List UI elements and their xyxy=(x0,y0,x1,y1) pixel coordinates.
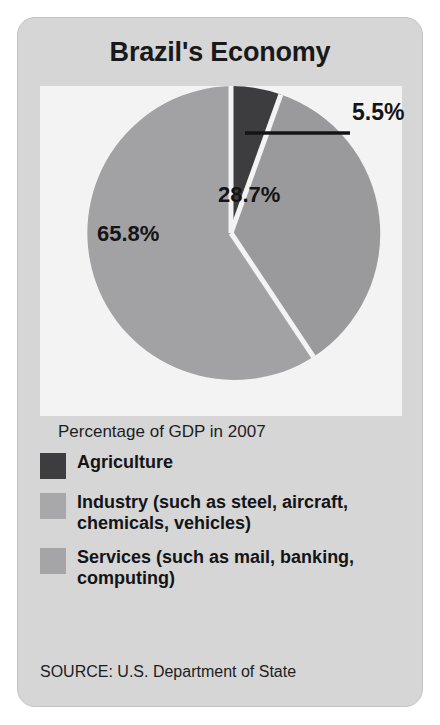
page-title: Brazil's Economy xyxy=(110,37,331,68)
legend-swatch-industry xyxy=(40,493,66,519)
legend-item-agriculture: Agriculture xyxy=(40,452,412,479)
source-note: SOURCE: U.S. Department of State xyxy=(40,663,296,681)
legend-label-agriculture: Agriculture xyxy=(77,452,173,473)
chart-legend: Percentage of GDP in 2007 Agriculture In… xyxy=(40,422,412,602)
legend-swatch-agriculture xyxy=(40,453,66,479)
legend-swatch-services xyxy=(40,548,66,574)
pie-label-industry: 28.7% xyxy=(218,182,280,208)
legend-item-industry: Industry (such as steel, aircraft, chemi… xyxy=(40,492,412,534)
chart-panel: 5.5% 28.7% 65.8% xyxy=(40,86,402,416)
pie-chart-svg xyxy=(40,86,402,416)
pie-chart: 5.5% 28.7% 65.8% xyxy=(40,86,402,416)
legend-caption: Percentage of GDP in 2007 xyxy=(58,422,412,442)
pie-label-agriculture: 5.5% xyxy=(352,99,404,126)
legend-item-services: Services (such as mail, banking, computi… xyxy=(40,547,412,589)
legend-label-industry: Industry (such as steel, aircraft, chemi… xyxy=(77,492,412,534)
title-band: Brazil's Economy xyxy=(18,18,422,86)
legend-label-services: Services (such as mail, banking, computi… xyxy=(77,547,412,589)
pie-label-services: 65.8% xyxy=(97,221,159,247)
infographic-card: Brazil's Economy xyxy=(17,17,423,707)
